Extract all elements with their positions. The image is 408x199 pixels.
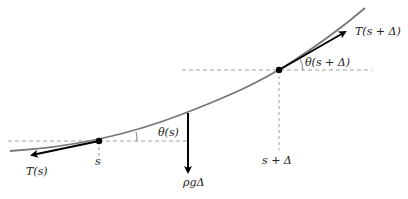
label-angle-left: θ(s) [158,126,179,139]
label-tension-left: T(s) [26,165,48,178]
label-position-s: s [95,155,101,168]
point-s [96,138,102,144]
angle-arc-right [300,59,303,70]
point-s-plus-delta [276,67,282,73]
label-angle-right: θ(s + Δ) [305,56,350,69]
label-tension-right: T(s + Δ) [355,25,401,38]
catenary-diagram: T(s) T(s + Δ) θ(s) θ(s + Δ) ρgΔ s s + Δ [0,0,408,199]
label-weight: ρgΔ [183,176,204,189]
diagram-graphics [0,0,408,199]
angle-arc-left [136,132,137,141]
label-position-s-delta: s + Δ [262,154,292,167]
